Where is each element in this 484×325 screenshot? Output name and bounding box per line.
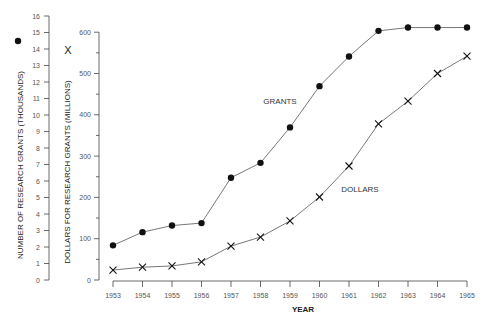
left-axis-tick-label: 8 xyxy=(36,145,40,152)
grants-data-point xyxy=(198,220,204,226)
left-axis-tick-label: 4 xyxy=(36,211,40,218)
left-axis-tick-label: 7 xyxy=(36,161,40,168)
x-axis-title: YEAR xyxy=(292,305,314,314)
left-axis-tick-label: 13 xyxy=(32,62,40,69)
grants-data-point xyxy=(139,229,145,235)
dollars-axis-tick-label: 200 xyxy=(79,194,91,201)
dollars-axis-tick-label: 400 xyxy=(79,111,91,118)
grants-data-point xyxy=(228,175,234,181)
left-axis-tick-label: 15 xyxy=(32,29,40,36)
left-axis-tick-label: 5 xyxy=(36,194,40,201)
x-axis-tick-label: 1956 xyxy=(194,292,210,299)
dollars-data-point xyxy=(464,53,471,60)
right-axis-label: DOLLARS FOR RESEARCH GRANTS (MILLIONS) xyxy=(63,80,72,264)
x-axis-tick-label: 1955 xyxy=(164,292,180,299)
dollars-axis-tick-label: 300 xyxy=(79,153,91,160)
x-axis-tick-label: 1957 xyxy=(223,292,239,299)
left-axis-tick-label: 14 xyxy=(32,46,40,53)
dollars-data-point xyxy=(228,243,235,250)
left-axis-tick-label: 6 xyxy=(36,178,40,185)
dollars-data-point xyxy=(287,217,294,224)
dollars-data-point xyxy=(375,120,382,127)
grants-legend-marker-icon xyxy=(15,38,21,44)
x-axis-tick-label: 1962 xyxy=(371,292,387,299)
grants-line xyxy=(113,28,467,246)
grants-data-point xyxy=(110,242,116,248)
left-axis-tick-label: 10 xyxy=(32,112,40,119)
grants-data-point xyxy=(346,53,352,59)
left-axis-tick-label: 1 xyxy=(36,260,40,267)
dollars-data-point xyxy=(316,193,323,200)
grants-data-point xyxy=(287,124,293,130)
grants-data-point xyxy=(169,222,175,228)
grants-series-label: GRANTS xyxy=(263,97,296,106)
grants-data-point xyxy=(257,160,263,166)
dollars-axis-tick-label: 100 xyxy=(79,235,91,242)
grants-data-point xyxy=(405,24,411,30)
left-axis-tick-label: 3 xyxy=(36,227,40,234)
dollars-line xyxy=(113,56,467,270)
dollars-legend-marker-icon: X xyxy=(64,44,72,56)
line-chart: 012345678910111213141516 010020030040050… xyxy=(0,0,484,325)
x-axis-tick-label: 1964 xyxy=(430,292,446,299)
x-axis-tick-label: 1963 xyxy=(400,292,416,299)
left-axis-label: NUMBER OF RESEARCH GRANTS (THOUSANDS) xyxy=(16,71,25,259)
x-axis-tick-label: 1965 xyxy=(459,292,475,299)
dollars-data-point xyxy=(257,234,264,241)
left-axis-tick-label: 2 xyxy=(36,244,40,251)
dollars-axis-tick-label: 500 xyxy=(79,70,91,77)
left-axis-tick-label: 0 xyxy=(36,277,40,284)
dollars-series-label: DOLLARS xyxy=(341,185,378,194)
x-axis-tick-label: 1958 xyxy=(253,292,269,299)
left-axis-tick-label: 16 xyxy=(32,13,40,20)
dollars-data-point xyxy=(346,163,353,170)
x-axis-tick-label: 1953 xyxy=(105,292,121,299)
left-axis-tick-label: 12 xyxy=(32,79,40,86)
dollars-axis-tick-label: 0 xyxy=(87,277,91,284)
left-axis-tick-label: 9 xyxy=(36,128,40,135)
x-axis-tick-label: 1954 xyxy=(135,292,151,299)
x-axis: 1953195419551956195719581959196019611962… xyxy=(105,281,475,299)
series-group xyxy=(110,24,471,273)
dollars-data-point xyxy=(434,70,441,77)
left-axis-tick-label: 11 xyxy=(33,95,40,102)
grants-data-point xyxy=(434,24,440,30)
grants-data-point xyxy=(375,28,381,34)
left-y-axis: 012345678910111213141516 xyxy=(32,13,49,284)
x-axis-tick-label: 1961 xyxy=(341,292,357,299)
grants-data-point xyxy=(464,24,470,30)
dollars-data-point xyxy=(405,98,412,105)
dollars-axis-tick-label: 600 xyxy=(79,29,91,36)
x-axis-tick-label: 1960 xyxy=(312,292,328,299)
dollars-y-axis: 0100200300400500600 xyxy=(79,29,99,284)
grants-data-point xyxy=(316,83,322,89)
x-axis-tick-label: 1959 xyxy=(282,292,298,299)
